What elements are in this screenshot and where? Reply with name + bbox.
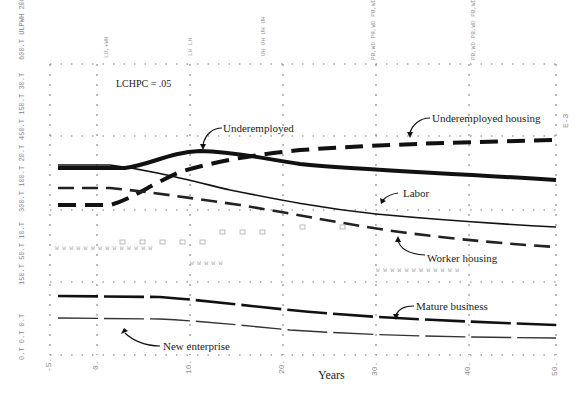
- series-worker-housing: [58, 188, 556, 247]
- label-underemployed: Underemployed: [223, 122, 294, 134]
- top-code-strip-5: PB,WD PB,WD PB,WD PB,WD: [470, 0, 477, 60]
- top-code-strip-1: LU,+WH: [103, 36, 110, 58]
- series-underemployed-housing: [58, 140, 556, 205]
- label-mature-business: Mature business: [416, 300, 488, 312]
- y-axis-row2-ticks: 450.T 150.T 30.T: [18, 73, 26, 140]
- y-axis-top-ticks: 600.T ULPWH 200.T W 40.T EBD: [18, 0, 26, 60]
- label-new-enterprise: New enterprise: [163, 340, 230, 352]
- marker-rows: [120, 225, 345, 244]
- w-marker-row: W W W W W W W W W W W W W W W W W W W W …: [55, 245, 459, 274]
- arrow-heads: [121, 132, 413, 334]
- y-axis-row3-ticks: 300.T 100.T 20.T: [18, 145, 26, 212]
- x-tick-minus5: -5.: [44, 358, 53, 372]
- y-axis-row4-ticks: 150.T 50.T 10.T: [18, 222, 26, 285]
- lchpc-annotation: LCHPC = .05: [116, 78, 171, 89]
- x-tick-30: 30.: [370, 362, 379, 376]
- label-underemployed-housing: Underemployed housing: [432, 112, 540, 124]
- top-code-strip-4: PB,WD PB,WD PB,WD PB,WD: [370, 0, 377, 60]
- svg-text:W W W W W W W W W W W W W W: W W W W W W W W W W W W W W: [55, 245, 153, 252]
- x-tick-0: 0.: [91, 360, 100, 370]
- svg-text:W W W W W: W W W W W: [190, 260, 223, 267]
- svg-text:W W W W W W W W W W W W: W W W W W W W W W W W W: [376, 267, 459, 274]
- marker-row-u: [120, 225, 345, 244]
- right-axis-label: E-3: [562, 114, 570, 128]
- label-worker-housing: Worker housing: [427, 252, 497, 264]
- series-underemployed: [58, 151, 556, 180]
- top-code-strip-3: UH UH UH UH: [260, 16, 267, 56]
- x-tick-10: 10.: [184, 360, 193, 374]
- x-tick-50: 50.: [550, 362, 559, 376]
- x-axis-title: Years: [318, 368, 345, 383]
- y-axis-row5-ticks: 0.T 0.T 0.T: [18, 314, 26, 360]
- x-tick-40: 40.: [463, 362, 472, 376]
- x-tick-20: 20.: [277, 360, 286, 374]
- top-code-strip-2: LH LH: [187, 38, 194, 56]
- label-labor: Labor: [403, 187, 429, 199]
- plot-area: W W W W W W W W W W W W W W W W W W W W …: [0, 0, 583, 400]
